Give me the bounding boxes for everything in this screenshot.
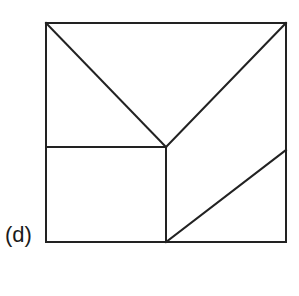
figure-label: (d): [5, 224, 32, 246]
square-dissection-diagram: [0, 0, 299, 296]
diagonal-bottom-center-to-right-line: [166, 150, 286, 242]
inner-segments: [46, 23, 286, 242]
diagonal-top-right-to-center-line: [166, 23, 286, 147]
dissection-figure: (d): [0, 0, 299, 296]
diagonal-top-left-to-center-line: [46, 23, 166, 147]
